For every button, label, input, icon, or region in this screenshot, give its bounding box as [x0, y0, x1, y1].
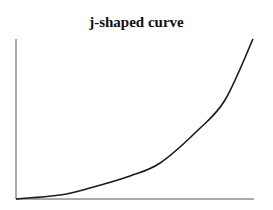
curve-line — [16, 39, 253, 199]
plot-area — [0, 0, 273, 210]
